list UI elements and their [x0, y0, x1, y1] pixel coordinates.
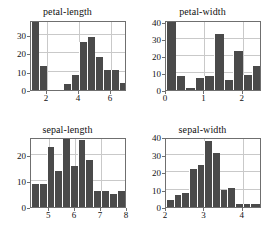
panel-title: petal-width: [135, 6, 270, 17]
histogram-bar: [111, 70, 119, 90]
histogram-bar: [195, 78, 205, 90]
y-axis-tick-mark: [162, 74, 165, 75]
y-axis-tick-label: 10: [17, 178, 26, 187]
histogram-bar: [235, 204, 243, 208]
y-axis-tick-label: 40: [152, 134, 161, 143]
plot-area: [165, 138, 261, 208]
panel-petal-width: petal-width010203040012: [135, 0, 270, 118]
x-axis-tick-mark: [78, 91, 79, 94]
histogram-bar: [243, 204, 251, 208]
x-axis-tick-label: 2: [240, 94, 245, 103]
histogram-bar: [47, 147, 55, 207]
x-axis-tick-label: 1: [201, 94, 206, 103]
x-axis-tick-mark: [74, 208, 75, 211]
panel-title: petal-length: [0, 6, 135, 17]
y-axis-tick-mark: [162, 173, 165, 174]
panel-sepal-width: sepal-width010203040234: [135, 118, 270, 237]
histogram-bar: [204, 141, 212, 208]
y-axis-tick-label: 10: [17, 69, 26, 78]
y-axis-tick-label: 40: [152, 19, 161, 28]
x-axis-tick-label: 2: [163, 211, 168, 220]
x-axis-tick-label: 7: [98, 211, 103, 220]
histogram-bar: [197, 165, 205, 207]
histogram-bar: [224, 80, 234, 90]
x-axis-tick-mark: [48, 208, 49, 211]
histogram-bar: [117, 191, 126, 207]
panel-petal-length: petal-length0102030246: [0, 0, 135, 118]
y-axis-tick-label: 10: [152, 187, 161, 196]
histogram-bar: [39, 184, 47, 207]
histogram-grid: petal-length0102030246petal-width0102030…: [0, 0, 270, 237]
x-axis-tick-mark: [100, 208, 101, 211]
histogram-bar: [174, 195, 182, 207]
x-axis-tick-label: 4: [240, 211, 245, 220]
y-axis-tick-label: 20: [152, 169, 161, 178]
histogram-bar: [63, 84, 71, 90]
histogram-bar: [79, 42, 87, 90]
histogram-bar: [103, 70, 111, 90]
x-axis-tick-label: 6: [108, 94, 113, 103]
histogram-bar: [181, 193, 189, 207]
y-axis-tick-label: 20: [152, 53, 161, 62]
x-axis-tick-label: 3: [201, 211, 206, 220]
x-axis-tick-label: 6: [72, 211, 77, 220]
histogram-bar: [220, 190, 228, 208]
y-axis-tick-mark: [162, 57, 165, 58]
x-axis-tick-label: 2: [44, 94, 49, 103]
plot-area: [30, 21, 126, 91]
bar-series: [166, 139, 260, 207]
histogram-bar: [176, 76, 186, 90]
histogram-bar: [31, 22, 39, 90]
x-axis-tick-label: 0: [163, 94, 168, 103]
bar-series: [31, 22, 125, 90]
histogram-bar: [109, 194, 117, 207]
bar-series: [31, 139, 125, 207]
y-axis-tick-mark: [27, 73, 30, 74]
histogram-bar: [250, 204, 261, 208]
y-axis-tick-label: 30: [17, 32, 26, 41]
y-axis-tick-mark: [27, 91, 30, 92]
histogram-bar: [95, 57, 103, 90]
plot-area: [165, 21, 261, 91]
histogram-bar: [214, 34, 224, 90]
x-axis-tick-mark: [203, 208, 204, 211]
histogram-bar: [166, 200, 174, 207]
y-axis-tick-label: 0: [22, 204, 27, 213]
y-axis-tick-mark: [27, 182, 30, 183]
y-axis-tick-mark: [27, 156, 30, 157]
histogram-bar: [54, 171, 62, 207]
plot-area: [30, 138, 126, 208]
histogram-bar: [31, 184, 39, 207]
x-axis-tick-label: 8: [124, 211, 129, 220]
y-axis-tick-label: 20: [17, 152, 26, 161]
y-axis-tick-mark: [162, 191, 165, 192]
y-axis-tick-label: 20: [17, 50, 26, 59]
y-axis-tick-label: 10: [152, 70, 161, 79]
histogram-bar: [212, 153, 220, 207]
x-axis-tick-mark: [165, 91, 166, 94]
y-axis-tick-label: 0: [22, 87, 27, 96]
histogram-bar: [62, 138, 70, 207]
y-axis-tick-label: 30: [152, 36, 161, 45]
x-axis-tick-mark: [242, 208, 243, 211]
histogram-bar: [227, 188, 235, 207]
histogram-bar: [87, 37, 95, 90]
x-axis-tick-mark: [46, 91, 47, 94]
y-axis-tick-mark: [27, 54, 30, 55]
y-axis-tick-mark: [162, 23, 165, 24]
x-axis-tick-mark: [126, 208, 127, 211]
histogram-bar: [166, 21, 176, 90]
histogram-bar: [204, 76, 214, 90]
x-axis-tick-mark: [110, 91, 111, 94]
y-axis-tick-label: 30: [152, 152, 161, 161]
histogram-bar: [233, 51, 243, 90]
histogram-bar: [119, 83, 126, 90]
y-axis-tick-mark: [162, 156, 165, 157]
histogram-bar: [85, 160, 93, 207]
histogram-bar: [93, 191, 101, 207]
histogram-bar: [78, 140, 86, 207]
x-axis-tick-label: 4: [76, 94, 81, 103]
x-axis-tick-label: 5: [46, 211, 51, 220]
histogram-bar: [243, 75, 253, 90]
y-axis-tick-mark: [27, 208, 30, 209]
